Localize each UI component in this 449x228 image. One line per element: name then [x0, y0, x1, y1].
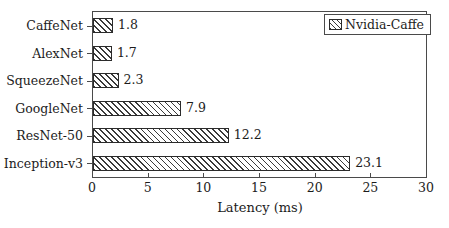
bar: [93, 18, 113, 33]
value-axis: 051015202530: [92, 178, 428, 200]
bar-value-label: 1.7: [117, 45, 137, 61]
chart-figure: CaffeNetAlexNetSqueezeNetGoogleNetResNet…: [0, 0, 449, 228]
x-tick-mark: [92, 173, 93, 178]
bar-value-label: 7.9: [186, 100, 206, 116]
bar: [93, 73, 119, 88]
bar-row: 23.1: [93, 150, 427, 178]
category-tick-mark: [87, 26, 92, 27]
bar-row: 1.7: [93, 40, 427, 68]
category-label: GoogleNet: [15, 95, 83, 123]
x-tick-label: 15: [251, 180, 267, 195]
category-label: Inception-v3: [4, 150, 83, 178]
x-tick-mark: [148, 173, 149, 178]
bar-row: 7.9: [93, 95, 427, 123]
x-tick-label: 25: [362, 180, 378, 195]
x-tick-label: 30: [418, 180, 434, 195]
bar: [93, 128, 229, 143]
category-tick-mark: [87, 108, 92, 109]
x-tick-label: 10: [195, 180, 211, 195]
bar: [93, 156, 350, 171]
x-tick-mark: [259, 173, 260, 178]
category-axis: CaffeNetAlexNetSqueezeNetGoogleNetResNet…: [0, 12, 92, 177]
bar-value-label: 12.2: [234, 127, 262, 143]
legend-entry-label: Nvidia-Caffe: [345, 18, 424, 32]
category-tick-mark: [87, 81, 92, 82]
bars-layer: 1.81.72.37.912.223.1: [93, 12, 427, 177]
x-tick-mark: [370, 173, 371, 178]
category-tick-mark: [87, 53, 92, 54]
x-tick-mark: [203, 173, 204, 178]
category-label: CaffeNet: [26, 12, 83, 40]
bar: [93, 46, 112, 61]
category-tick-mark: [87, 136, 92, 137]
bar-value-label: 2.3: [124, 72, 144, 88]
bar-value-label: 1.8: [118, 17, 138, 33]
legend-box: Nvidia-Caffe: [324, 14, 431, 35]
bar-row: 12.2: [93, 122, 427, 150]
bar-row: 2.3: [93, 67, 427, 95]
x-tick-label: 5: [144, 180, 152, 195]
category-label: AlexNet: [32, 40, 83, 68]
bar-value-label: 23.1: [355, 155, 383, 171]
bar: [93, 101, 181, 116]
x-tick-mark: [315, 173, 316, 178]
x-axis-title: Latency (ms): [92, 200, 428, 215]
category-label: ResNet-50: [16, 122, 83, 150]
legend-swatch-icon: [329, 19, 342, 30]
x-tick-label: 0: [88, 180, 96, 195]
x-tick-label: 20: [307, 180, 323, 195]
category-tick-mark: [87, 163, 92, 164]
x-tick-mark: [426, 173, 427, 178]
category-label: SqueezeNet: [6, 67, 83, 95]
